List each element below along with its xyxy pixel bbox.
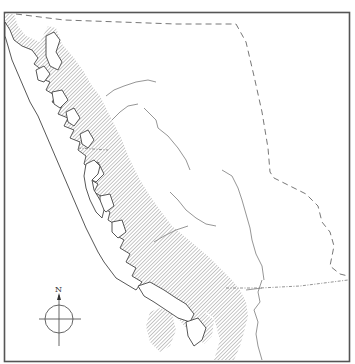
- map-canvas: N: [0, 0, 355, 364]
- compass-label: N: [55, 285, 62, 294]
